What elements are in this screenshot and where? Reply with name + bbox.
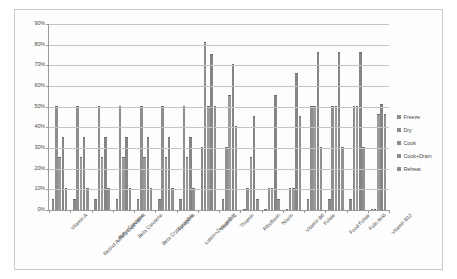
bars-layer bbox=[49, 24, 389, 210]
y-axis-tick bbox=[46, 86, 49, 87]
legend-item[interactable]: Reheat bbox=[397, 162, 443, 175]
legend-label: Freeze bbox=[404, 114, 420, 120]
legend-label: Reheat bbox=[404, 166, 421, 172]
bar bbox=[76, 106, 79, 210]
bar bbox=[317, 52, 320, 210]
bar bbox=[150, 188, 153, 210]
bar-group bbox=[368, 24, 389, 210]
y-axis-tick-label: 0% bbox=[37, 207, 45, 212]
bar-group bbox=[49, 24, 70, 210]
bar bbox=[380, 104, 383, 210]
y-axis-tick-label: 60% bbox=[35, 83, 46, 88]
bar bbox=[171, 188, 174, 210]
bar bbox=[201, 147, 204, 210]
bar-group bbox=[262, 24, 283, 210]
legend-label: Dry bbox=[404, 127, 412, 133]
bar bbox=[116, 199, 119, 210]
y-axis-tick bbox=[46, 65, 49, 66]
gridline bbox=[49, 169, 389, 170]
bar bbox=[268, 188, 271, 210]
bar bbox=[214, 106, 217, 210]
bar-group bbox=[325, 24, 346, 210]
bar bbox=[320, 147, 323, 210]
bar bbox=[119, 106, 122, 210]
chart-container: 90%80%70%60%50%40%30%20%10%0% Vitamin AR… bbox=[14, 9, 443, 270]
gridline bbox=[49, 24, 389, 25]
bar bbox=[86, 188, 89, 210]
bar bbox=[307, 199, 310, 210]
bar bbox=[183, 106, 186, 210]
bar bbox=[286, 209, 289, 210]
x-axis: Vitamin ARetinol Activity EquivalentAlph… bbox=[48, 212, 388, 270]
bar bbox=[122, 157, 125, 210]
y-axis-tick bbox=[46, 169, 49, 170]
y-axis-tick bbox=[46, 45, 49, 46]
bar bbox=[341, 147, 344, 210]
bar bbox=[331, 106, 334, 210]
bar bbox=[274, 95, 277, 210]
bar bbox=[246, 188, 249, 210]
y-axis-tick-label: 80% bbox=[35, 42, 46, 47]
legend-swatch-icon bbox=[397, 141, 401, 145]
bar bbox=[73, 199, 76, 210]
bar bbox=[129, 188, 132, 210]
bar bbox=[65, 188, 68, 210]
bar bbox=[371, 209, 374, 210]
y-axis-tick-label: 30% bbox=[35, 145, 46, 150]
chart-legend: FreezeDryCookCook+DrainReheat bbox=[397, 110, 443, 175]
bar bbox=[384, 114, 387, 210]
bar bbox=[55, 106, 58, 210]
bar bbox=[349, 199, 352, 210]
bar bbox=[256, 199, 259, 210]
bar-group bbox=[240, 24, 261, 210]
legend-swatch-icon bbox=[397, 128, 401, 132]
x-axis-category-label: Thiamin bbox=[239, 212, 256, 229]
bar bbox=[137, 199, 140, 210]
y-axis-tick bbox=[46, 127, 49, 128]
bar bbox=[158, 199, 161, 210]
x-axis-category-label: Vitamin B12 bbox=[390, 212, 413, 235]
plot-area bbox=[48, 24, 389, 211]
bar bbox=[222, 199, 225, 210]
plot-wrapper: 90%80%70%60%50%40%30%20%10%0% Vitamin AR… bbox=[15, 10, 442, 269]
gridline bbox=[49, 86, 389, 87]
bar bbox=[52, 199, 55, 210]
legend-swatch-icon bbox=[397, 167, 401, 171]
bar bbox=[225, 147, 228, 210]
legend-item[interactable]: Dry bbox=[397, 123, 443, 136]
bar bbox=[250, 157, 253, 210]
bar-group bbox=[347, 24, 368, 210]
legend-swatch-icon bbox=[397, 154, 401, 158]
bar-group bbox=[198, 24, 219, 210]
y-axis-tick-label: 20% bbox=[35, 166, 46, 171]
bar bbox=[328, 199, 331, 210]
legend-item[interactable]: Cook bbox=[397, 136, 443, 149]
x-axis-category-label: Niacin bbox=[280, 212, 294, 226]
bar-group bbox=[70, 24, 91, 210]
y-axis-tick-label: 70% bbox=[35, 63, 46, 68]
bar-group bbox=[304, 24, 325, 210]
bar bbox=[353, 106, 356, 210]
x-axis-category-label: Food Folate bbox=[347, 212, 370, 235]
legend-item[interactable]: Freeze bbox=[397, 110, 443, 123]
legend-item[interactable]: Cook+Drain bbox=[397, 149, 443, 162]
bar bbox=[210, 54, 213, 210]
y-axis: 90%80%70%60%50%40%30%20%10%0% bbox=[19, 24, 45, 210]
gridline bbox=[49, 45, 389, 46]
bar bbox=[80, 157, 83, 210]
gridline bbox=[49, 189, 389, 190]
x-axis-category-label: Riboflavin bbox=[261, 212, 281, 232]
bar bbox=[264, 209, 267, 210]
bar bbox=[165, 157, 168, 210]
gridline bbox=[49, 107, 389, 108]
y-axis-tick-label: 50% bbox=[35, 104, 46, 109]
gridline bbox=[49, 65, 389, 66]
bar bbox=[253, 116, 256, 210]
bar bbox=[271, 188, 274, 210]
y-axis-tick-label: 10% bbox=[35, 187, 46, 192]
bar-group bbox=[155, 24, 176, 210]
y-axis-tick bbox=[46, 148, 49, 149]
bar bbox=[143, 157, 146, 210]
bar-group bbox=[283, 24, 304, 210]
y-axis-tick bbox=[46, 24, 49, 25]
